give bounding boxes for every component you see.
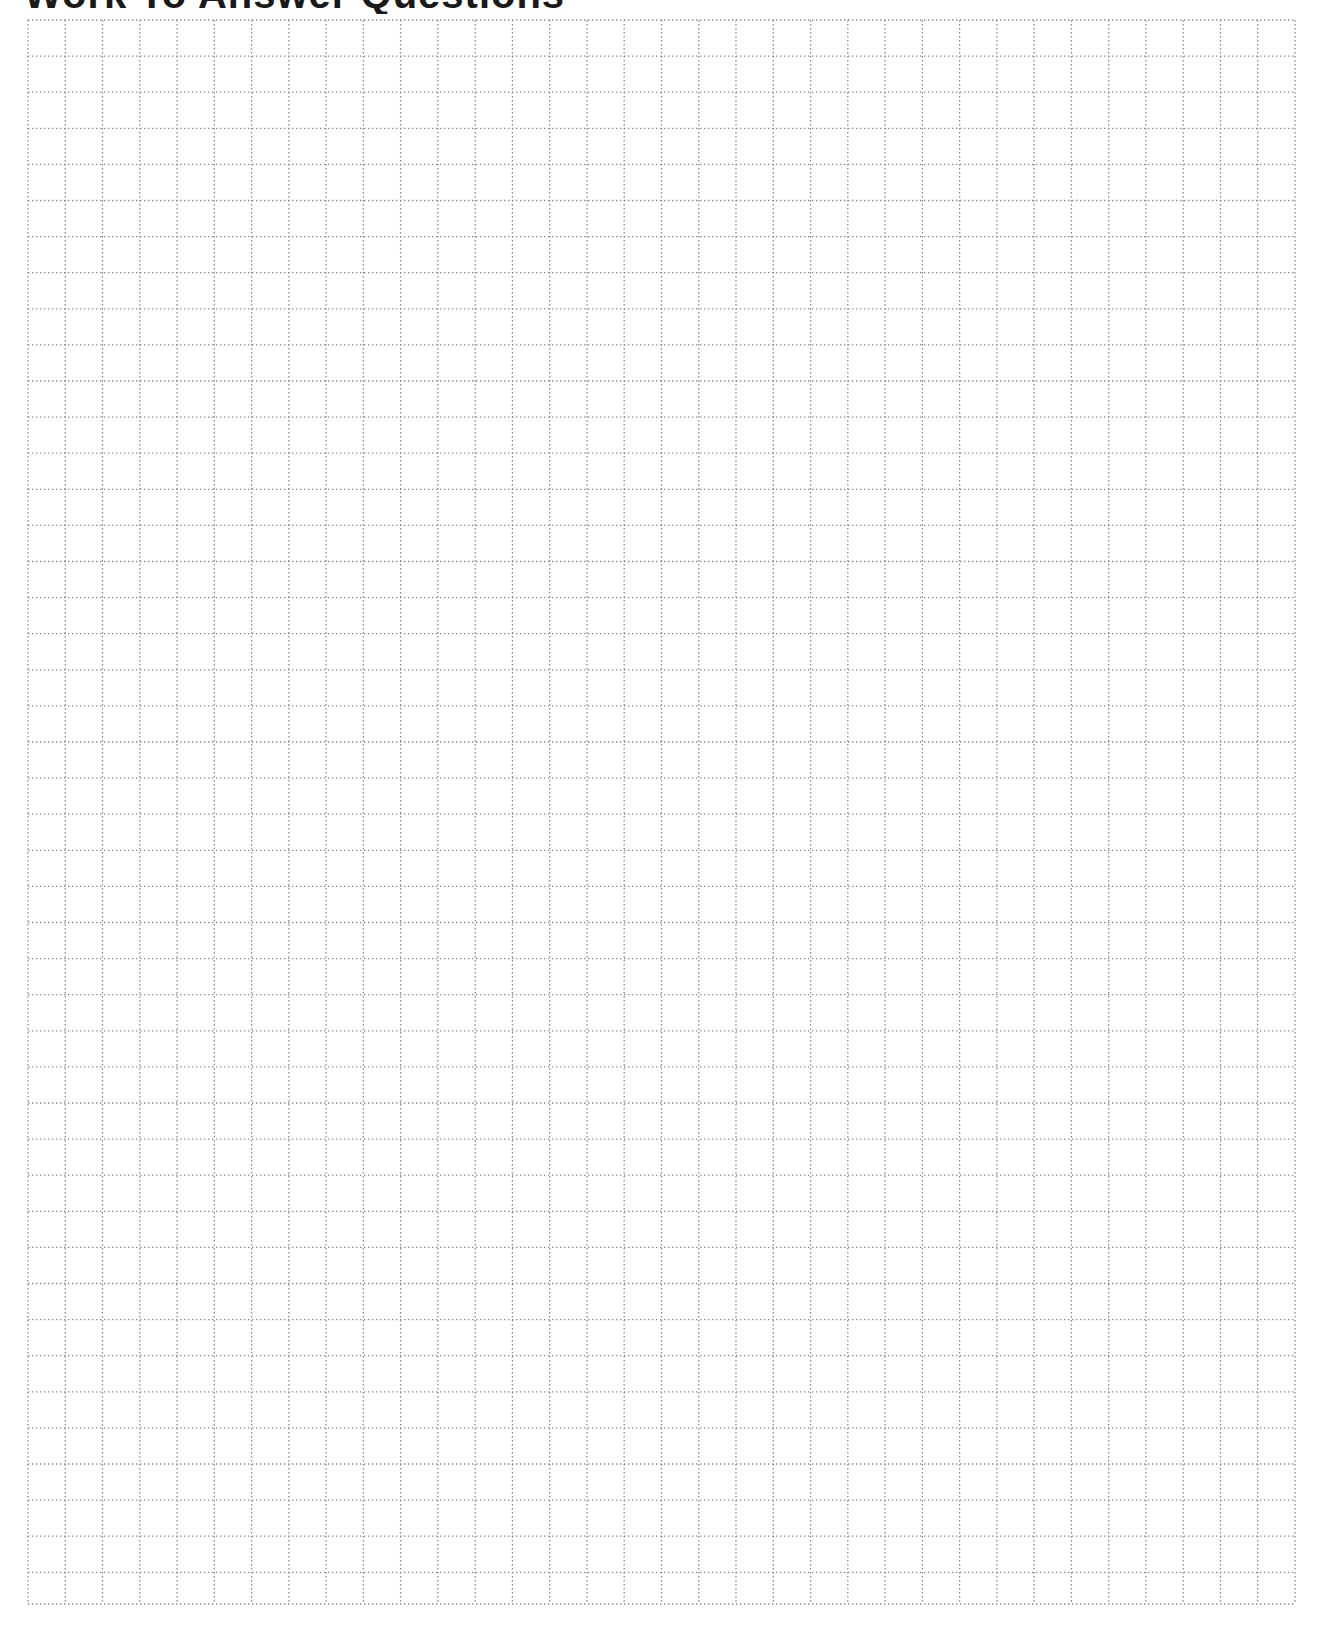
dotted-answer-grid [0, 0, 1319, 1626]
